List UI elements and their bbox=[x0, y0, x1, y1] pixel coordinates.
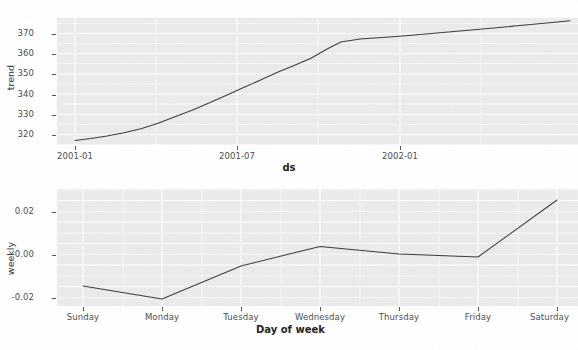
weekly-plot-area bbox=[57, 189, 578, 306]
weekly-xtick-mark-wednesday bbox=[320, 307, 321, 311]
trend-xtick-2002-01: 2002-01 bbox=[369, 151, 431, 161]
trend-ytick-320: 320 bbox=[8, 129, 34, 139]
trend-ytick-mark-340 bbox=[52, 95, 56, 96]
weekly-panel: weekly 0.02 0.00 -0.02 bbox=[0, 175, 578, 350]
trend-xtick-2001-07: 2001-07 bbox=[206, 151, 268, 161]
weekly-xtick-monday: Monday bbox=[127, 312, 197, 322]
trend-ytick-330: 330 bbox=[8, 109, 34, 119]
prophet-components-figure: trend 370 360 350 340 330 320 bbox=[0, 0, 578, 350]
trend-line bbox=[75, 21, 570, 141]
weekly-ytick-mark-neg002 bbox=[52, 298, 56, 299]
weekly-xtick-friday: Friday bbox=[443, 312, 513, 322]
trend-ytick-370: 370 bbox=[8, 28, 34, 38]
weekly-xtick-mark-thursday bbox=[399, 307, 400, 311]
trend-ytick-mark-360 bbox=[52, 54, 56, 55]
trend-ytick-mark-370 bbox=[52, 34, 56, 35]
weekly-ytick-002: 0.02 bbox=[4, 206, 34, 216]
weekly-ytick-mark-000 bbox=[52, 255, 56, 256]
trend-xtick-mark-1 bbox=[75, 146, 76, 150]
trend-plot-area bbox=[57, 18, 578, 145]
weekly-plot-svg bbox=[57, 189, 578, 306]
weekly-xtick-tuesday: Tuesday bbox=[206, 312, 276, 322]
weekly-xtick-mark-tuesday bbox=[241, 307, 242, 311]
trend-x-axis-title: ds bbox=[257, 162, 321, 173]
weekly-x-axis-title: Day of week bbox=[256, 324, 376, 335]
weekly-ytick-000: 0.00 bbox=[4, 249, 34, 259]
trend-xtick-mark-2 bbox=[237, 146, 238, 150]
trend-ytick-350: 350 bbox=[8, 68, 34, 78]
weekly-ytick-mark-002 bbox=[52, 212, 56, 213]
weekly-xtick-mark-friday bbox=[478, 307, 479, 311]
weekly-ytick-neg002: -0.02 bbox=[4, 292, 34, 302]
weekly-xtick-sunday: Sunday bbox=[48, 312, 118, 322]
trend-plot-svg bbox=[57, 18, 578, 145]
trend-xtick-mark-3 bbox=[400, 146, 401, 150]
trend-xtick-2001-01: 2001-01 bbox=[44, 151, 106, 161]
trend-ytick-mark-330 bbox=[52, 115, 56, 116]
weekly-xtick-mark-sunday bbox=[83, 307, 84, 311]
trend-ytick-mark-350 bbox=[52, 74, 56, 75]
trend-major-gridlines bbox=[57, 18, 578, 145]
weekly-xtick-wednesday: Wednesday bbox=[285, 312, 355, 322]
weekly-xtick-mark-monday bbox=[162, 307, 163, 311]
weekly-xtick-saturday: Saturday bbox=[521, 312, 578, 322]
trend-ytick-340: 340 bbox=[8, 89, 34, 99]
trend-ytick-360: 360 bbox=[8, 48, 34, 58]
weekly-xtick-mark-saturday bbox=[557, 307, 558, 311]
trend-ytick-mark-320 bbox=[52, 135, 56, 136]
weekly-xtick-thursday: Thursday bbox=[364, 312, 434, 322]
trend-panel: trend 370 360 350 340 330 320 bbox=[0, 0, 578, 175]
trend-minor-gridlines bbox=[57, 18, 578, 145]
